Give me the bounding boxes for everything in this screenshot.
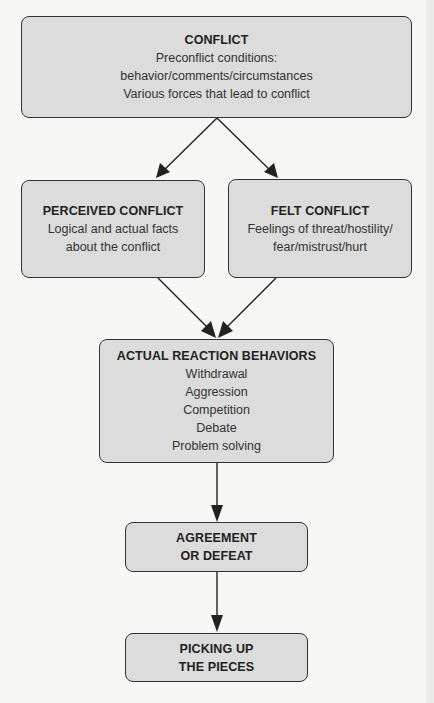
- node-agreement-title-1: AGREEMENT: [176, 529, 257, 547]
- node-agreement-or-defeat: AGREEMENT OR DEFEAT: [125, 522, 308, 572]
- node-conflict-title: CONFLICT: [185, 31, 249, 49]
- node-conflict-line-2: behavior/comments/circumstances: [120, 67, 312, 85]
- node-felt-conflict: FELT CONFLICT Feelings of threat/hostili…: [228, 179, 412, 278]
- node-actual-line-5: Problem solving: [172, 437, 261, 455]
- arrow-conflict-to-felt: [217, 118, 278, 178]
- node-perceived-line-2: about the conflict: [66, 238, 161, 256]
- node-felt-line-2: fear/mistrust/hurt: [273, 238, 367, 256]
- arrow-agreement-to-picking: [211, 572, 223, 632]
- node-perceived-conflict: PERCEIVED CONFLICT Logical and actual fa…: [21, 180, 205, 278]
- node-actual-line-1: Withdrawal: [186, 365, 248, 383]
- node-actual-line-3: Competition: [183, 401, 250, 419]
- node-picking-up-the-pieces: PICKING UP THE PIECES: [125, 633, 308, 682]
- node-actual-line-4: Debate: [196, 419, 236, 437]
- arrow-perceived-to-actual: [158, 278, 216, 338]
- arrow-actual-to-agreement: [211, 463, 223, 522]
- node-felt-line-1: Feelings of threat/hostility/: [247, 220, 392, 238]
- node-perceived-title: PERCEIVED CONFLICT: [43, 202, 184, 220]
- arrow-felt-to-actual: [218, 278, 276, 338]
- node-picking-title-2: THE PIECES: [179, 658, 254, 676]
- node-conflict: CONFLICT Preconflict conditions: behavio…: [21, 16, 412, 118]
- node-actual-title: ACTUAL REACTION BEHAVIORS: [117, 347, 316, 365]
- node-picking-title-1: PICKING UP: [180, 640, 254, 658]
- node-agreement-title-2: OR DEFEAT: [180, 547, 252, 565]
- node-conflict-line-3: Various forces that lead to conflict: [123, 85, 310, 103]
- node-felt-title: FELT CONFLICT: [271, 202, 369, 220]
- node-perceived-line-1: Logical and actual facts: [48, 220, 179, 238]
- node-actual-reaction-behaviors: ACTUAL REACTION BEHAVIORS Withdrawal Agg…: [99, 339, 334, 463]
- node-actual-line-2: Aggression: [185, 383, 248, 401]
- arrow-conflict-to-perceived: [156, 118, 217, 178]
- node-conflict-line-1: Preconflict conditions:: [156, 49, 278, 67]
